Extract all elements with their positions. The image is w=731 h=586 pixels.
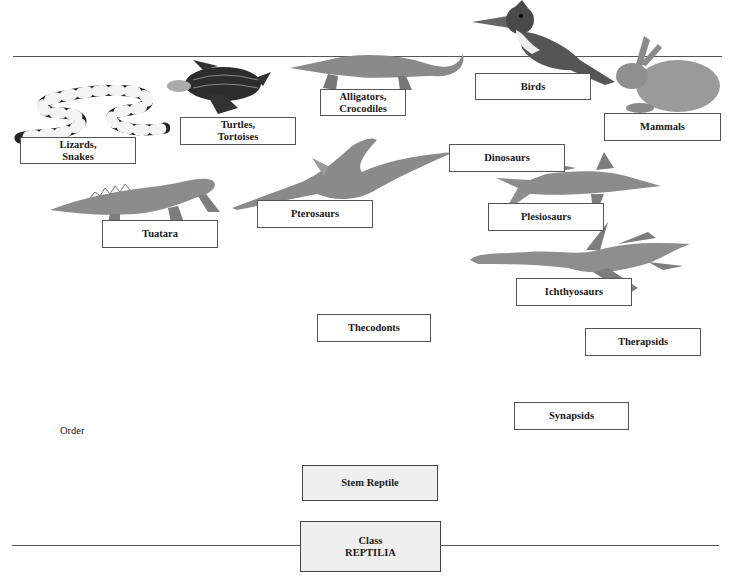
root-class-reptilia[interactable]: Class REPTILIA [300, 521, 441, 572]
node-dinosaurs[interactable]: Dinosaurs [449, 144, 565, 172]
rabbit-illustration [610, 36, 725, 116]
node-label: Tuatara [142, 228, 178, 240]
node-label: Dinosaurs [484, 152, 530, 164]
node-thecodonts[interactable]: Thecodonts [317, 314, 431, 342]
node-label: Turtles, Tortoises [218, 119, 258, 143]
node-therapsids[interactable]: Therapsids [585, 328, 701, 356]
node-label: Ichthyosaurs [545, 286, 603, 298]
root-label-class: Class [359, 535, 383, 547]
node-label: Pterosaurs [291, 208, 339, 220]
node-mammals[interactable]: Mammals [604, 113, 721, 141]
node-lizards-snakes[interactable]: Lizards, Snakes [20, 137, 136, 164]
node-pterosaurs[interactable]: Pterosaurs [257, 200, 373, 228]
node-label: Birds [521, 81, 546, 93]
node-turtles-tortoises[interactable]: Turtles, Tortoises [180, 117, 296, 145]
node-label: Plesiosaurs [521, 211, 571, 223]
snake-illustration [10, 78, 170, 146]
node-label: Alligators, Crocodiles [339, 91, 387, 115]
node-stem-reptile[interactable]: Stem Reptile [302, 465, 438, 501]
node-synapsids[interactable]: Synapsids [514, 402, 629, 430]
turtle-illustration [163, 56, 273, 114]
node-label: Therapsids [618, 336, 668, 348]
alligator-illustration [288, 46, 468, 94]
root-label-name: REPTILIA [345, 547, 396, 559]
node-birds[interactable]: Birds [475, 73, 591, 100]
node-plesiosaurs[interactable]: Plesiosaurs [488, 203, 604, 231]
node-label: Thecodonts [348, 322, 400, 334]
node-alligators-crocodiles[interactable]: Alligators, Crocodiles [320, 89, 406, 116]
node-label: Lizards, Snakes [59, 139, 96, 163]
node-label: Synapsids [549, 410, 594, 422]
node-ichthyosaurs[interactable]: Ichthyosaurs [516, 278, 632, 306]
node-label: Mammals [640, 121, 685, 133]
node-label: Stem Reptile [341, 477, 398, 489]
node-tuatara[interactable]: Tuatara [102, 220, 218, 248]
order-axis-label: Order [60, 425, 85, 436]
